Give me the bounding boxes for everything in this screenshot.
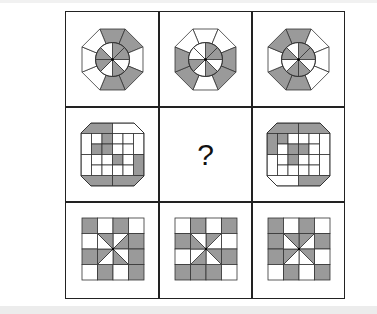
figure-r2c3 xyxy=(252,107,345,202)
answer-slot[interactable]: ? xyxy=(159,107,252,202)
question-mark: ? xyxy=(159,107,252,202)
octagon-figure xyxy=(159,12,252,107)
octagon-figure xyxy=(252,12,345,107)
top-divider xyxy=(0,0,377,3)
puzzle-grid: ? xyxy=(65,11,345,299)
figure-r3c1 xyxy=(66,202,159,297)
square-grid-figure xyxy=(159,202,252,297)
figure-r1c3 xyxy=(252,12,345,107)
square-grid-figure xyxy=(66,202,159,297)
octagon-grid-figure xyxy=(66,107,159,202)
bottom-divider xyxy=(0,306,377,314)
octagon-figure xyxy=(66,12,159,107)
octagon-grid-figure xyxy=(252,107,345,202)
figure-r1c2 xyxy=(159,12,252,107)
figure-r1c1 xyxy=(66,12,159,107)
figure-r3c2 xyxy=(159,202,252,297)
figure-r3c3 xyxy=(252,202,345,297)
square-grid-figure xyxy=(252,202,345,297)
figure-r2c1 xyxy=(66,107,159,202)
